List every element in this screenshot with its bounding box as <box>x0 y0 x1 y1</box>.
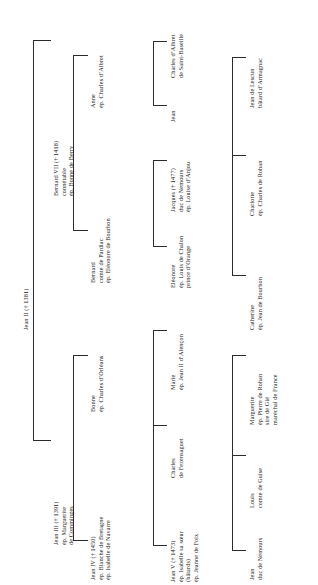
connector-jean3-to-jean4 <box>73 540 88 541</box>
connector-gen1-to-bernard7 <box>33 40 51 41</box>
connector-jacques-to-catherine <box>232 275 246 276</box>
node-line: prince d’Orange <box>184 236 192 288</box>
node-bernard-vii[interactable]: Bernard VII († 1418) connétable ép. Bonn… <box>52 141 75 196</box>
node-line: Marie <box>169 334 177 390</box>
node-line: Jean III († 1391) <box>52 501 60 545</box>
node-jean-iii[interactable]: Jean III († 1391) ép. Marguerite de Comm… <box>52 501 75 545</box>
node-jean-de-lescun[interactable]: Jean de Lescun bâtard d’Armagnac <box>248 58 263 108</box>
connector-bernard7-to-anne <box>73 55 88 56</box>
node-line: ép. Charles d’Albret <box>97 55 105 108</box>
node-line: ép. Blanche de Bretagne <box>97 517 105 580</box>
node-line: Jean IV († 1450) <box>89 517 97 580</box>
node-line: duc de Nemours <box>177 162 185 212</box>
node-jacques-duc-de-nemours[interactable]: Jacques († 1477) duc de Nemours ép. Loui… <box>169 162 192 212</box>
node-line: sire de Gié <box>263 374 271 425</box>
node-line: ép. Jeanne de Foix <box>192 531 200 582</box>
node-bonne[interactable]: Bonne ép. Charles d’Orléans <box>89 356 104 412</box>
connector-bernard-pardiac-to-eleonore <box>153 246 167 247</box>
connector-jean5-to-louis-guise <box>232 455 246 456</box>
node-charlotte[interactable]: Charlotte ép. Charles de Rohan <box>248 161 263 216</box>
node-marguerite[interactable]: Marguerite ép. Pierre de Rohan sire de G… <box>248 374 278 425</box>
node-marie[interactable]: Marie ép. Jean II d’Alençon <box>169 334 184 390</box>
connector-jean5-to-marguerite <box>232 355 246 356</box>
node-jean-duc-de-nemours[interactable]: Jean duc de Nemours <box>248 538 263 580</box>
node-line: Charles d’Albret <box>169 34 177 78</box>
node-line: (bâtards) <box>184 531 192 582</box>
node-line: Jacques († 1477) <box>169 162 177 212</box>
node-jean-dalbret[interactable]: Jean <box>169 111 177 123</box>
node-line: ép. Jean II d’Alençon <box>177 334 185 390</box>
node-line: ép. Marguerite <box>60 501 68 545</box>
node-catherine[interactable]: Catherine ép. Jean de Bourbon <box>248 277 263 330</box>
node-charles-de-fezensaguet[interactable]: Charles de Fezensaguet <box>169 438 184 478</box>
node-line: de Fezensaguet <box>177 438 185 478</box>
node-bernard-pardiac[interactable]: Bernard comte de Pardiac ép. Eléonore de… <box>89 218 112 283</box>
node-line: Louis <box>248 468 256 508</box>
node-line: de Saint-Baseille <box>177 34 185 78</box>
node-line: Jean <box>169 111 177 123</box>
node-eleonore[interactable]: Eléonore ép. Louis de Chalon prince d’Or… <box>169 236 192 288</box>
node-charles-dalbret-de-saint-baseille[interactable]: Charles d’Albret de Saint-Baseille <box>169 34 184 78</box>
connector-anne-spine <box>153 41 154 105</box>
connector-jean4-to-charles-fez <box>153 425 167 426</box>
node-line: Jean V († 1473) <box>169 531 177 582</box>
connector-jean4-to-jean5 <box>153 545 167 546</box>
node-louis-comte-de-guise[interactable]: Louis comte de Guise <box>248 468 263 508</box>
connector-jacques-to-jean-lescun <box>232 57 246 58</box>
node-line: maréchal de France <box>271 374 279 425</box>
node-line: ép. Louise d’Anjou <box>184 162 192 212</box>
node-line: de Comminges <box>67 501 75 545</box>
node-line: Marguerite <box>248 374 256 425</box>
connector-jean5-to-jean-nemours <box>232 550 246 551</box>
node-line: Bonne <box>89 356 97 412</box>
connector-jean5-spine <box>232 355 233 550</box>
connector-jacques-spine <box>232 57 233 275</box>
node-line: Jean de Lescun <box>248 58 256 108</box>
node-line: Eléonore <box>169 236 177 288</box>
node-line: Charlotte <box>248 161 256 216</box>
node-line: Anne <box>89 55 97 108</box>
node-line: Charles <box>169 438 177 478</box>
connector-bernard-pardiac-to-jacques <box>153 160 167 161</box>
node-jean-iv[interactable]: Jean IV († 1450) ép. Blanche de Bretagne… <box>89 517 112 580</box>
connector-jean4-spine <box>153 330 154 545</box>
node-line: bâtard d’Armagnac <box>256 58 264 108</box>
node-line: ép. Bonne de Berry <box>67 141 75 196</box>
node-line: Catherine <box>248 277 256 330</box>
node-line: ép. Pierre de Rohan <box>256 374 264 425</box>
node-line: ép. Louis de Chalon <box>177 236 185 288</box>
connector-gen1-to-jean3 <box>33 440 51 441</box>
node-line: comte de Guise <box>256 468 264 508</box>
node-line: Bernard <box>89 218 97 283</box>
node-line: ép. Jean de Bourbon <box>256 277 264 330</box>
node-line: Jean II († 1381) <box>22 289 30 330</box>
connector-anne-to-jean-albret <box>153 105 167 106</box>
connector-jacques-to-charlotte <box>232 155 246 156</box>
connector-bernard7-to-bernard-pardiac <box>73 230 88 231</box>
node-line: Bernard VII († 1418) <box>52 141 60 196</box>
node-line: comte de Pardiac <box>97 218 105 283</box>
node-line: connétable <box>60 141 68 196</box>
node-line: duc de Nemours <box>256 538 264 580</box>
node-line: ép. Eléonore de Bourbon <box>104 218 112 283</box>
node-line: ép. Isabelle sa sœur <box>177 531 185 582</box>
connector-gen1-spine <box>33 40 34 441</box>
node-line: ép. Charles d’Orléans <box>97 356 105 412</box>
connector-jean4-to-marie <box>153 330 167 331</box>
node-anne[interactable]: Anne ép. Charles d’Albret <box>89 55 104 108</box>
node-jean-v[interactable]: Jean V († 1473) ép. Isabelle sa sœur (bâ… <box>169 531 199 582</box>
node-line: Jean <box>248 538 256 580</box>
node-jean-ii[interactable]: Jean II († 1381) <box>22 289 30 330</box>
node-line: ép. Isabelle de Navarre <box>104 517 112 580</box>
family-tree-diagram: Jean II († 1381) Bernard VII († 1418) co… <box>0 0 318 585</box>
connector-jean3-to-bonne <box>73 355 88 356</box>
connector-bernard-pardiac-spine <box>153 160 154 246</box>
node-line: ép. Charles de Rohan <box>256 161 264 216</box>
connector-anne-to-charles-albret-sb <box>153 41 167 42</box>
